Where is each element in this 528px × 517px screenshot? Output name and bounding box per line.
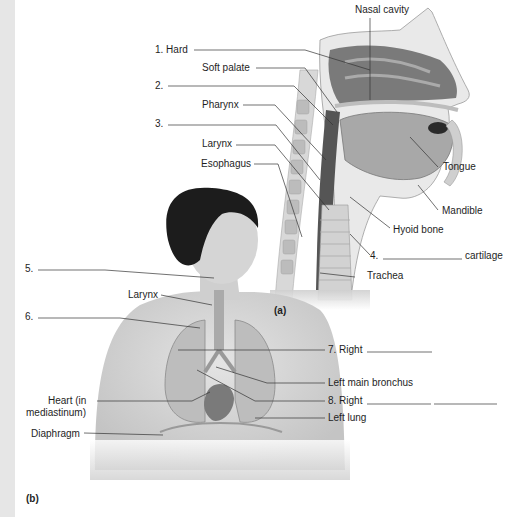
label-1-hard-blank: 1. Hard — [155, 44, 188, 55]
label-6-blank: 6. — [25, 311, 33, 322]
label-4-blank: 4. — [370, 250, 378, 261]
label-heart-line2: mediastinum) — [26, 407, 86, 418]
label-heart-line1: Heart (in — [48, 395, 86, 406]
label-esophagus: Esophagus — [201, 158, 251, 169]
label-8-right-blank: 8. Right — [328, 395, 362, 406]
panel-label-b: (b) — [26, 493, 39, 504]
label-soft-palate: Soft palate — [202, 62, 250, 73]
label-nasal-cavity: Nasal cavity — [355, 4, 409, 15]
torso-with-lungs — [90, 188, 350, 480]
label-larynx-b: Larynx — [128, 289, 158, 300]
label-7-right-blank: 7. Right — [328, 344, 362, 355]
label-larynx-a: Larynx — [202, 138, 232, 149]
label-trachea: Trachea — [367, 270, 403, 281]
label-left-main-bronchus: Left main bronchus — [328, 377, 413, 388]
label-5-blank: 5. — [25, 263, 33, 274]
label-left-lung: Left lung — [328, 412, 366, 423]
label-2-blank: 2. — [155, 80, 163, 91]
label-tongue: Tongue — [443, 161, 476, 172]
label-diaphragm: Diaphragm — [31, 428, 80, 439]
label-cartilage: cartilage — [465, 250, 503, 261]
panel-label-a: (a) — [274, 305, 286, 316]
label-hyoid-bone: Hyoid bone — [393, 224, 444, 235]
label-pharynx: Pharynx — [202, 99, 239, 110]
sagittal-head-section — [270, 8, 469, 310]
label-3-blank: 3. — [155, 118, 163, 129]
respiratory-illustration — [0, 0, 528, 517]
label-mandible: Mandible — [442, 205, 483, 216]
